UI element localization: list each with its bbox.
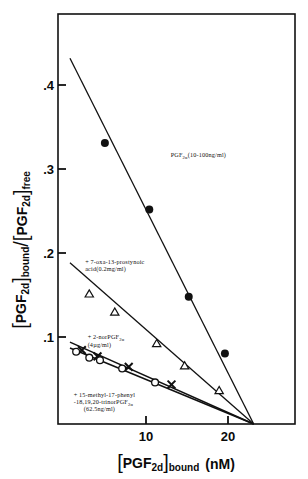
x-axis-title: [PGF2d]bound(nM) bbox=[117, 451, 235, 473]
annot-7oxa-line1: + 7-oxa-13-prostynoic bbox=[85, 258, 144, 265]
data-point bbox=[152, 379, 159, 386]
y-tick-label-4: .4 bbox=[43, 78, 55, 93]
annot-2nor-line2: (4µg/ml) bbox=[88, 341, 112, 349]
y-title-pgf-2: PGF bbox=[14, 206, 30, 235]
annot-15methyl-line2: -18,19,20-trinorPGF bbox=[74, 398, 129, 405]
y-title-sub-2: 2d bbox=[21, 195, 32, 207]
data-point bbox=[101, 139, 109, 147]
annot-15methyl-line1: + 15-methyl-17-phenyl bbox=[74, 391, 135, 398]
x-tick-label-20: 20 bbox=[221, 429, 235, 444]
data-point bbox=[185, 293, 193, 301]
y-tick-label-2: .2 bbox=[43, 246, 54, 261]
data-point bbox=[221, 349, 229, 357]
x-title-units: (nM) bbox=[205, 456, 235, 472]
svg-text:[PGF2d]bound(nM): [PGF2d]bound(nM) bbox=[117, 451, 235, 473]
annot-pgf2alpha-tail: (10-100ng/ml) bbox=[188, 151, 226, 159]
y-tick-label-3: .3 bbox=[43, 162, 54, 177]
data-point bbox=[119, 365, 126, 372]
annot-2nor-line1: + 2-norPGF bbox=[88, 333, 120, 340]
x-title-pgf: PGF bbox=[123, 455, 152, 471]
annot-2nor-sub: 2α bbox=[119, 337, 124, 342]
annot-7oxa-line2: acid(0.2mg/ml) bbox=[85, 265, 126, 273]
y-axis-title: [PGF2d]bound/[PGF2d]free bbox=[9, 171, 32, 329]
data-point bbox=[145, 205, 153, 213]
y-title-sub-1: 2d bbox=[20, 283, 31, 295]
scatchard-plot-figure: .4 .3 .2 .1 10 20 [PGF2d]bound/[PGF2d]fr… bbox=[0, 0, 308, 479]
data-point bbox=[86, 354, 93, 361]
annot-15methyl-sub: 2α bbox=[128, 402, 133, 407]
y-title-free: free bbox=[21, 171, 32, 190]
x-tick-label-10: 10 bbox=[139, 429, 153, 444]
plot-svg: .4 .3 .2 .1 10 20 [PGF2d]bound/[PGF2d]fr… bbox=[0, 0, 308, 479]
data-point bbox=[73, 348, 80, 355]
data-point bbox=[97, 357, 104, 364]
annot-pgf2alpha-main: PGF bbox=[171, 151, 183, 158]
svg-text:[PGF2d]bound/[PGF2d]free: [PGF2d]bound/[PGF2d]free bbox=[9, 171, 32, 329]
y-title-bound: bound bbox=[20, 247, 31, 278]
annot-15methyl-line3: (62.5ng/ml) bbox=[84, 405, 115, 413]
plot-frame bbox=[58, 14, 295, 424]
x-title-bound: bound bbox=[169, 462, 200, 473]
y-tick-label-1: .1 bbox=[43, 330, 54, 345]
y-title-pgf-1: PGF bbox=[13, 294, 29, 323]
x-title-sub: 2d bbox=[152, 462, 164, 473]
